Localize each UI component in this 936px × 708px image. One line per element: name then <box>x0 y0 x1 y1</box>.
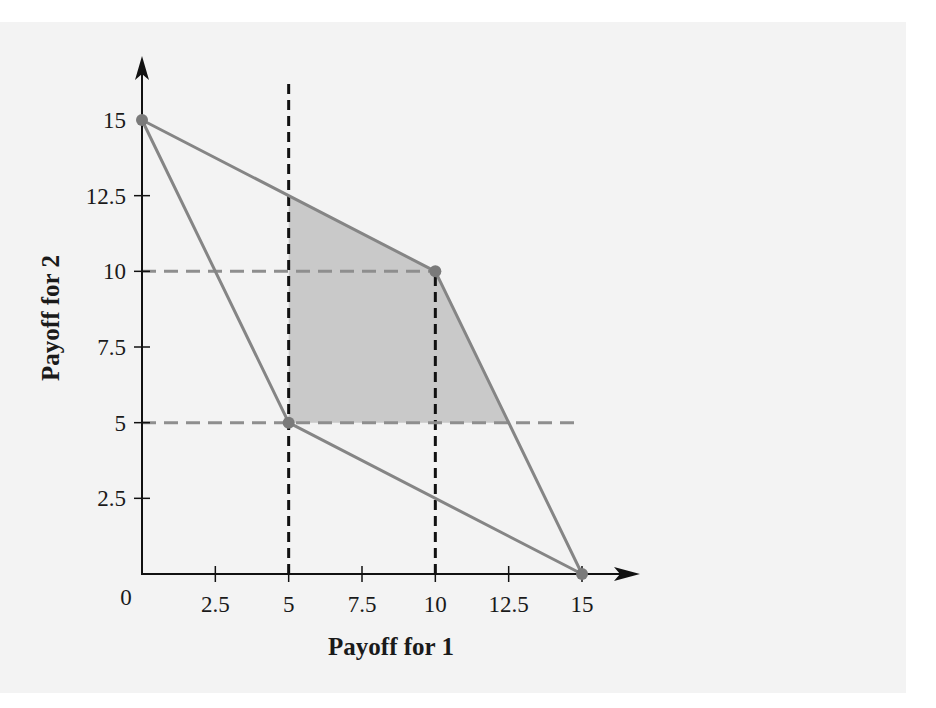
point-0-15 <box>136 114 148 126</box>
x-tick-label: 2.5 <box>201 592 230 617</box>
x-tick-label: 15 <box>571 592 594 617</box>
y-tick-label: 7.5 <box>97 335 126 360</box>
payoff-chart: 2.557.51012.5152.557.51012.515 0 Payoff … <box>0 0 936 708</box>
y-axis-title: Payoff for 2 <box>37 255 64 381</box>
x-tick-label: 7.5 <box>348 592 377 617</box>
x-axis-title: Payoff for 1 <box>328 633 454 660</box>
point-10-10 <box>429 265 441 277</box>
y-tick-label: 2.5 <box>97 486 126 511</box>
point-5-5 <box>283 417 295 429</box>
x-tick-label: 5 <box>283 592 295 617</box>
point-15-0 <box>576 568 588 580</box>
y-tick-label: 10 <box>103 259 126 284</box>
y-tick-label: 5 <box>115 411 127 436</box>
origin-label: 0 <box>120 585 132 610</box>
y-tick-label: 15 <box>103 108 126 133</box>
shaded-region <box>289 196 509 423</box>
x-tick-label: 10 <box>424 592 447 617</box>
x-tick-label: 12.5 <box>489 592 529 617</box>
shaded-region-layer <box>289 196 509 423</box>
y-tick-label: 12.5 <box>86 184 126 209</box>
